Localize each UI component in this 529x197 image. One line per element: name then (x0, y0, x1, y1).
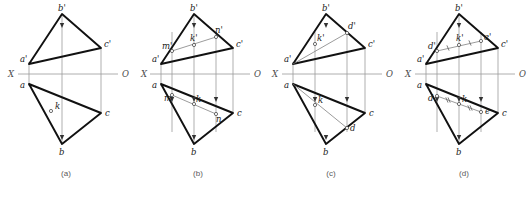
vertex-label-b: b (456, 147, 461, 157)
vertex-label-b: b (191, 147, 196, 157)
vertex-label-a: a (417, 80, 422, 90)
vertex-label-b-prime: b' (190, 3, 198, 13)
axis-label-o: O (122, 69, 129, 79)
axis-label-x: X (404, 69, 412, 79)
point-label-d-prime: d' (428, 41, 436, 51)
vertex-label-a-prime: a' (20, 54, 27, 64)
point-label-k-prime: k' (190, 33, 198, 43)
vertex-label-a: a (152, 80, 157, 90)
point-marker-k (313, 103, 316, 106)
point-marker-k-prime (192, 43, 195, 46)
vertex-label-b: b (59, 147, 64, 157)
vertex-label-a-prime: a' (417, 54, 424, 64)
axis-label-x: X (271, 69, 279, 79)
point-marker-n-prime (214, 35, 217, 38)
projection-figure-plate: XOb'c'a'acbk(a)XOb'c'a'acbm'k'n'mkn(b)XO… (0, 0, 529, 197)
vertex-label-c-prime: c' (236, 39, 243, 49)
panel-caption-a: (a) (61, 169, 71, 178)
point-label-n-prime: n' (215, 25, 223, 35)
point-label-m: m (164, 93, 172, 103)
vertex-label-c: c (502, 108, 507, 118)
point-label-d-prime: d' (348, 21, 356, 31)
vertex-label-c-prime: c' (368, 39, 375, 49)
point-label-k: k (318, 95, 323, 105)
point-marker-d-prime (435, 49, 438, 52)
panel-caption-b: (b) (193, 169, 203, 178)
axis-label-o: O (254, 69, 261, 79)
point-label-k-prime: k' (456, 33, 464, 43)
point-label-k: k (462, 94, 467, 104)
vertex-label-b: b (323, 147, 328, 157)
vertex-label-c-prime: c' (501, 39, 508, 49)
point-marker-e (479, 110, 482, 113)
vertex-label-b-prime: b' (58, 3, 66, 13)
point-marker-d (435, 94, 438, 97)
point-label-n: n (216, 114, 221, 124)
point-marker-e-prime (479, 39, 482, 42)
point-marker-d (345, 126, 348, 129)
vertex-label-a: a (284, 80, 289, 90)
vertex-label-k: k (55, 101, 60, 111)
vertex-label-c: c (369, 108, 374, 118)
point-label-e-prime: e' (484, 32, 491, 42)
vertex-label-a-prime: a' (152, 54, 159, 64)
point-label-e: e (485, 106, 490, 116)
vertex-label-c-prime: c' (104, 39, 111, 49)
axis-label-o: O (386, 69, 393, 79)
point-label-k-prime: k' (317, 33, 325, 43)
panel-caption-c: (c) (326, 169, 336, 178)
point-marker-k (49, 109, 52, 112)
vertex-label-c: c (237, 108, 242, 118)
vertex-label-a: a (20, 80, 25, 90)
axis-label-x: X (7, 69, 15, 79)
point-marker-k (457, 102, 460, 105)
panel-caption-d: (d) (459, 169, 469, 178)
point-marker-d-prime (345, 31, 348, 34)
vertex-label-b-prime: b' (322, 3, 330, 13)
point-label-d: d (350, 123, 356, 133)
point-label-d: d (428, 93, 434, 103)
point-label-m-prime: m' (162, 41, 172, 51)
vertex-label-b-prime: b' (455, 3, 463, 13)
point-marker-k-prime (457, 43, 460, 46)
vertex-label-a-prime: a' (284, 54, 291, 64)
point-label-k: k (196, 94, 201, 104)
axis-label-o: O (519, 69, 526, 79)
vertex-label-c: c (105, 108, 110, 118)
axis-label-x: X (140, 69, 148, 79)
